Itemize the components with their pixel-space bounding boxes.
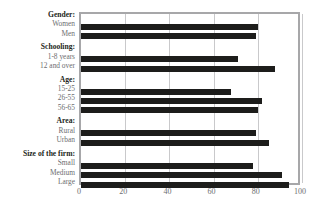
x-tick-label: 60 xyxy=(208,187,216,197)
x-tick-label: 20 xyxy=(119,187,127,197)
category-label: Urban xyxy=(57,136,75,144)
category-label: 26-55 xyxy=(58,94,75,102)
category-label: Women xyxy=(52,20,75,28)
category-label: 12 and over xyxy=(40,62,75,70)
group-label-0: Gender: xyxy=(48,11,75,19)
bar xyxy=(81,33,256,39)
bar xyxy=(81,140,269,146)
group-label-4: Size of the firm: xyxy=(23,150,75,158)
x-tick-label: 0 xyxy=(77,187,81,197)
bar xyxy=(81,56,238,62)
bars-layer xyxy=(81,14,298,183)
category-label: Men xyxy=(61,30,75,38)
bar xyxy=(81,66,275,72)
x-axis-tick-labels: 020406080100 xyxy=(0,187,316,201)
bar xyxy=(81,163,253,169)
category-label: 1-8 years xyxy=(48,53,75,61)
bar xyxy=(81,130,256,136)
bar xyxy=(81,89,231,95)
bar xyxy=(81,24,258,30)
bar-chart: Gender:WomenMenSchooling:1-8 years12 and… xyxy=(0,0,316,209)
gridline xyxy=(302,14,303,183)
x-tick-label: 40 xyxy=(163,187,171,197)
group-label-3: Area: xyxy=(57,117,75,125)
category-label: 15-25 xyxy=(58,85,75,93)
group-label-1: Schooling: xyxy=(41,43,75,51)
group-label-2: Age: xyxy=(60,76,75,84)
category-label: Medium xyxy=(50,169,75,177)
category-label: Large xyxy=(58,178,75,186)
x-tick-label: 100 xyxy=(294,187,306,197)
bar xyxy=(81,107,258,113)
bar xyxy=(81,98,262,104)
category-label: Small xyxy=(58,159,75,167)
x-tick-label: 80 xyxy=(252,187,260,197)
category-label: 56-65 xyxy=(58,104,75,112)
bar xyxy=(81,172,282,178)
category-label: Rural xyxy=(59,127,75,135)
category-label-column: Gender:WomenMenSchooling:1-8 years12 and… xyxy=(0,12,77,185)
plot-area xyxy=(79,12,300,185)
